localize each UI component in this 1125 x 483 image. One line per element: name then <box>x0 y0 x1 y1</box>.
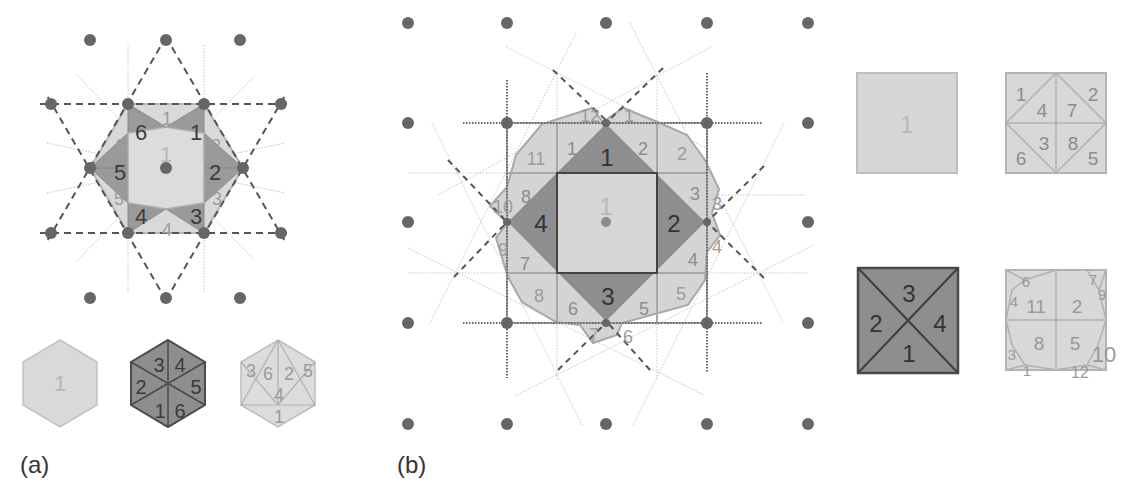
svg-text:8: 8 <box>521 187 531 207</box>
svg-text:1: 1 <box>902 340 915 367</box>
svg-text:9: 9 <box>1098 286 1106 303</box>
svg-text:2: 2 <box>667 210 680 237</box>
svg-text:10: 10 <box>493 197 513 217</box>
svg-text:5: 5 <box>639 299 649 319</box>
svg-text:2: 2 <box>869 310 882 337</box>
svg-text:12: 12 <box>580 106 600 126</box>
svg-text:6: 6 <box>174 400 185 422</box>
svg-text:4: 4 <box>174 354 185 376</box>
panel-b-caption: (b) <box>397 451 426 478</box>
svg-text:7: 7 <box>1067 100 1078 121</box>
svg-text:2: 2 <box>1088 84 1099 105</box>
svg-text:5: 5 <box>114 160 126 185</box>
svg-text:11: 11 <box>1026 296 1046 317</box>
svg-text:10: 10 <box>1092 342 1116 367</box>
svg-text:8: 8 <box>1034 333 1045 354</box>
svg-text:6: 6 <box>1022 273 1030 290</box>
svg-text:5: 5 <box>190 376 201 398</box>
svg-text:4: 4 <box>135 204 147 229</box>
svg-text:6: 6 <box>135 120 147 145</box>
svg-text:3: 3 <box>153 354 164 376</box>
svg-text:12: 12 <box>1071 364 1089 381</box>
svg-text:3: 3 <box>190 204 202 229</box>
svg-text:1: 1 <box>190 120 202 145</box>
panel-a-center-label: 1 <box>160 142 172 167</box>
svg-text:3: 3 <box>1039 133 1050 154</box>
svg-text:5: 5 <box>676 284 686 304</box>
svg-text:6: 6 <box>568 299 578 319</box>
legend-hex-light-label: 1 <box>54 371 66 396</box>
svg-text:4: 4 <box>274 385 284 405</box>
svg-text:6: 6 <box>1016 148 1027 169</box>
panel-b-legend: 1 1 4 7 2 6 3 8 5 <box>857 73 1116 381</box>
svg-text:7: 7 <box>1089 271 1097 288</box>
svg-text:4: 4 <box>712 237 722 257</box>
svg-text:1: 1 <box>274 407 284 427</box>
svg-text:3: 3 <box>712 194 722 214</box>
svg-text:3: 3 <box>212 189 222 209</box>
svg-text:6: 6 <box>115 136 125 156</box>
svg-text:4: 4 <box>1037 100 1048 121</box>
svg-text:5: 5 <box>1070 333 1081 354</box>
svg-text:4: 4 <box>534 210 547 237</box>
svg-text:1: 1 <box>154 400 165 422</box>
svg-text:2: 2 <box>638 139 648 159</box>
svg-text:3: 3 <box>1008 346 1016 363</box>
panel-a-lattice-dots <box>45 34 287 304</box>
svg-text:2: 2 <box>135 376 146 398</box>
svg-text:6: 6 <box>623 327 633 347</box>
svg-text:1: 1 <box>162 109 172 129</box>
svg-text:8: 8 <box>1068 133 1079 154</box>
panel-a-legend: 1 3 4 5 6 1 2 <box>23 340 315 427</box>
svg-text:1: 1 <box>624 106 634 126</box>
panel-a-caption: (a) <box>20 451 49 478</box>
legend-square-light-label: 1 <box>900 111 913 138</box>
panel-b: 1 1 2 3 4 1 2 3 4 5 6 7 8 1 2 3 4 5 6 7 … <box>397 17 1116 478</box>
svg-text:4: 4 <box>1010 293 1018 310</box>
svg-text:3: 3 <box>246 361 256 381</box>
svg-text:7: 7 <box>589 325 599 345</box>
panel-b-lattice-dots <box>402 17 814 430</box>
svg-text:11: 11 <box>527 149 546 169</box>
svg-text:3: 3 <box>902 280 915 307</box>
svg-text:4: 4 <box>688 250 698 270</box>
svg-text:4: 4 <box>162 220 172 240</box>
panel-b-center-label: 1 <box>599 193 612 220</box>
svg-text:5: 5 <box>303 361 313 381</box>
svg-text:3: 3 <box>690 184 700 204</box>
svg-text:5: 5 <box>1088 148 1099 169</box>
symmetry-diagram: 1 1 2 3 4 5 6 1 2 3 4 5 6 1 <box>0 0 1125 483</box>
svg-text:1: 1 <box>600 144 613 171</box>
svg-text:1: 1 <box>1016 84 1027 105</box>
panel-a: 1 1 2 3 4 5 6 1 2 3 4 5 6 1 <box>20 34 315 478</box>
svg-text:5: 5 <box>114 189 124 209</box>
svg-text:2: 2 <box>211 136 221 156</box>
svg-text:9: 9 <box>498 240 508 260</box>
svg-text:1: 1 <box>1023 362 1031 379</box>
svg-text:2: 2 <box>677 144 687 164</box>
svg-text:2: 2 <box>284 364 294 384</box>
svg-text:6: 6 <box>263 364 273 384</box>
svg-text:7: 7 <box>520 254 530 274</box>
svg-text:8: 8 <box>534 286 544 306</box>
svg-text:2: 2 <box>209 160 221 185</box>
svg-text:4: 4 <box>933 310 946 337</box>
svg-text:1: 1 <box>567 139 577 159</box>
svg-text:3: 3 <box>601 283 614 310</box>
svg-text:2: 2 <box>1072 296 1083 317</box>
